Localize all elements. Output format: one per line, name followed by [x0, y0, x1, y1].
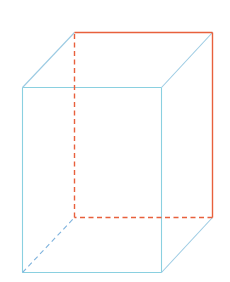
cuboid-wireframe — [0, 0, 230, 282]
edge-bottom-right-depth — [162, 218, 213, 273]
edge-top-left-depth — [23, 33, 75, 88]
diagram-canvas: Rectangular prism (cuboid) with highligh… — [0, 0, 230, 282]
edge-top-right-depth — [162, 33, 213, 88]
edge-bottom-left-depth — [23, 218, 75, 273]
